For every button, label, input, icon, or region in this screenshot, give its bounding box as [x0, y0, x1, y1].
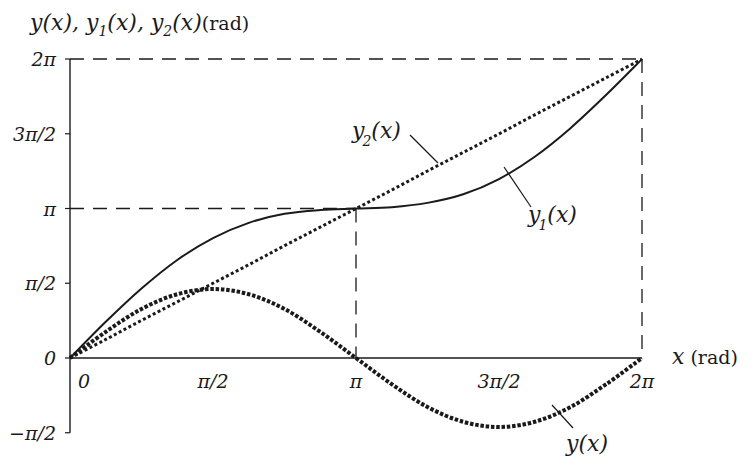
curve-label-y: y(x)	[565, 431, 608, 456]
x-tick-label: 2π	[629, 370, 655, 392]
x-tick-label: π/2	[197, 370, 229, 392]
leader-y1	[504, 167, 531, 207]
y-tick-label: π/2	[24, 272, 56, 294]
tick-labels: −π/20π/2π3π/22π0π/2π3π/22π	[9, 48, 655, 444]
y-tick-label: 0	[44, 347, 56, 369]
curve-label-y1: y1(x)	[527, 202, 577, 233]
y-tick-label: π	[43, 198, 57, 220]
x-tick-label: 3π/2	[477, 370, 520, 392]
chart-canvas: −π/20π/2π3π/22π0π/2π3π/22π y(x), y1(x), …	[0, 0, 755, 476]
x-tick-label: π	[349, 370, 363, 392]
y-tick-label: 2π	[30, 48, 56, 70]
curve-label-y2: y2(x)	[351, 118, 401, 149]
x-axis-label: x(rad)	[672, 344, 738, 369]
y-axis-label: y(x), y1(x), y2(x)(rad)	[29, 10, 249, 39]
x-tick-label: 0	[78, 370, 90, 392]
y-tick-label: −π/2	[9, 422, 56, 444]
leader-y2	[410, 135, 438, 163]
y-tick-label: 3π/2	[13, 123, 56, 145]
